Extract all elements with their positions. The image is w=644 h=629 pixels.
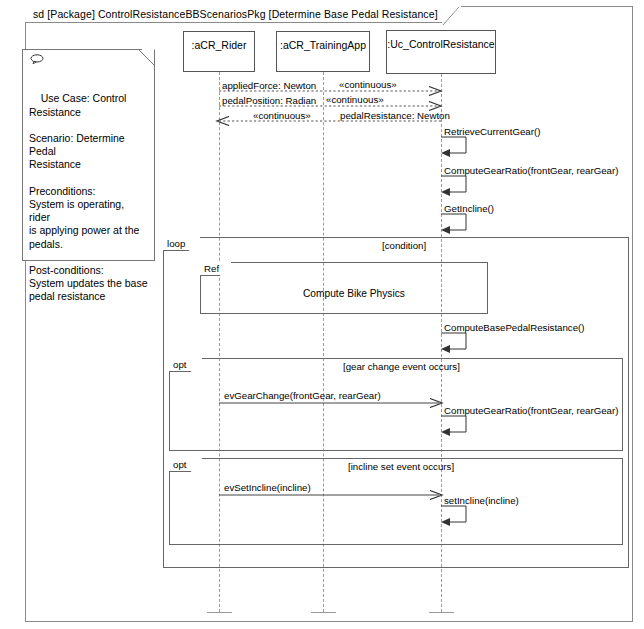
fragment-operator-loop-label: loop	[167, 238, 185, 249]
lifeline-label-2: :Uc_ControlResistance	[387, 38, 494, 50]
lifeline-head-acr-trainingapp[interactable]: :aCR_TrainingApp	[276, 31, 370, 72]
fragment-operator-ref: Ref	[200, 262, 231, 276]
fragment-operator-ref-label: Ref	[204, 263, 219, 274]
fragment-operator-opt-incline-label: opt	[173, 459, 186, 470]
self-call-set-incline	[438, 505, 478, 527]
note-fold-corner-icon	[139, 50, 154, 65]
lifeline-head-uc-controlresistance[interactable]: :Uc_ControlResistance	[386, 30, 496, 74]
message-arrow-ev-gear-change	[219, 398, 447, 408]
self-call-get-incline	[438, 213, 478, 235]
sd-frame-title: sd [Package] ControlResistanceBBScenario…	[33, 8, 438, 20]
fragment-operator-opt-incline-set: opt	[169, 458, 202, 472]
fragment-tab-corner-icon	[219, 261, 231, 277]
self-call-retrieve-current-gear	[438, 136, 478, 158]
interaction-use-ref-label: Compute Bike Physics	[303, 288, 405, 299]
lifeline-foot-uc-controlresistance	[429, 612, 454, 613]
fragment-tab-corner-icon	[190, 457, 202, 473]
sd-frame-title-tab: sd [Package] ControlResistanceBBScenario…	[25, 6, 461, 23]
fragment-tab-corner-icon	[190, 357, 202, 373]
use-case-note: Use Case: Control Resistance Scenario: D…	[22, 49, 155, 261]
message-arrow-ev-set-incline	[219, 490, 447, 500]
lifeline-head-acr-rider[interactable]: :aCR_Rider	[183, 31, 255, 72]
fragment-tab-corner-icon	[188, 236, 200, 252]
fragment-condition-opt-incline-set: [incline set event occurs]	[348, 461, 454, 472]
sequence-diagram-canvas: sd [Package] ControlResistanceBBScenario…	[0, 0, 644, 629]
lifeline-label-0: :aCR_Rider	[192, 39, 247, 51]
self-call-compute-gear-ratio-1	[438, 175, 478, 197]
frame-tab-corner-icon	[442, 6, 460, 25]
lifeline-foot-acr-trainingapp	[311, 612, 336, 613]
fragment-operator-loop: loop	[163, 237, 200, 251]
fragment-condition-loop: [condition]	[382, 240, 426, 251]
lifeline-foot-acr-rider	[207, 612, 232, 613]
note-balloon-icon	[30, 54, 44, 64]
fragment-operator-opt-gear-label: opt	[173, 359, 186, 370]
lifeline-label-1: :aCR_TrainingApp	[280, 39, 366, 51]
self-call-compute-base-pedal-resistance	[438, 332, 478, 354]
self-call-compute-gear-ratio-2	[438, 415, 478, 437]
message-arrow-pedal-resistance	[214, 116, 444, 126]
fragment-condition-opt-gear-change: [gear change event occurs]	[343, 361, 460, 372]
fragment-operator-opt-gear-change: opt	[169, 358, 202, 372]
